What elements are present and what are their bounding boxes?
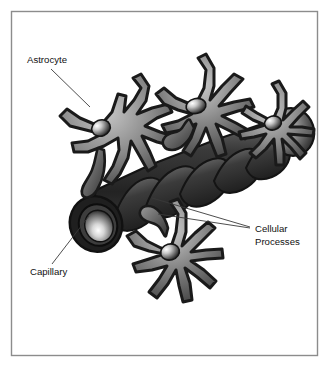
label-astrocyte: Astrocyte (27, 54, 67, 65)
label-capillary: Capillary (30, 266, 68, 277)
label-cellular-processes-line-2: Processes (255, 236, 300, 247)
astrocyte-capillary-illustration: Astrocyte Capillary Cellular Processes (0, 0, 332, 371)
label-cellular-processes-line-1: Cellular (255, 223, 288, 234)
figure-root: Astrocyte Capillary Cellular Processes (0, 0, 332, 371)
